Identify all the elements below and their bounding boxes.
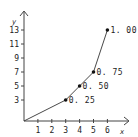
data-point-marker [78, 84, 82, 88]
y-tick-label: 3 [14, 96, 19, 105]
y-tick-label: 5 [14, 82, 19, 91]
series-line [24, 30, 107, 121]
y-tick-label: 11 [9, 40, 19, 49]
data-point-label: 1. 00 [110, 26, 137, 35]
x-tick-label: 2 [49, 126, 54, 135]
data-series: 0. 250. 500. 751. 00 [24, 26, 137, 121]
x-tick-label: 3 [63, 126, 68, 135]
y-axis-title: y [11, 18, 17, 26]
line-chart: 12345635791113 0. 250. 500. 751. 00 y x [0, 0, 138, 137]
data-point-label: 0. 50 [83, 82, 110, 91]
x-tick-label: 6 [105, 126, 110, 135]
x-axis-title: x [119, 128, 125, 136]
x-tick-label: 5 [91, 126, 96, 135]
y-tick-label: 13 [9, 26, 19, 35]
x-tick-label: 4 [77, 126, 82, 135]
data-point-label: 0. 25 [69, 96, 96, 105]
y-tick-label: 7 [14, 68, 19, 77]
y-tick-label: 9 [14, 54, 19, 63]
data-point-label: 0. 75 [97, 68, 124, 77]
data-point-marker [106, 28, 110, 32]
data-point-marker [92, 70, 96, 74]
data-point-marker [64, 98, 68, 102]
x-tick-label: 1 [35, 126, 40, 135]
